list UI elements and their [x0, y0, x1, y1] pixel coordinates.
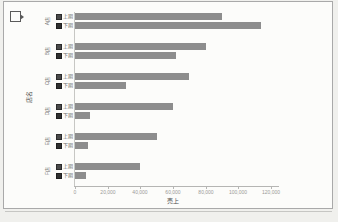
series-label: 上期 — [63, 43, 75, 50]
bar[interactable] — [75, 82, 126, 89]
bar-row: 上期 — [52, 73, 278, 80]
series-label: 上期 — [63, 163, 75, 170]
bar-row: 上期 — [52, 43, 278, 50]
legend-key-icon — [56, 113, 62, 119]
bar[interactable] — [75, 163, 140, 170]
series-label: 下期 — [63, 82, 75, 89]
bar[interactable] — [75, 73, 189, 80]
selection-cursor-icon — [10, 11, 21, 22]
legend-key-icon — [56, 23, 62, 29]
bar-group: A店 上期 下期 — [52, 13, 278, 29]
legend-key-icon — [56, 44, 62, 50]
x-tick-label: 100,000 — [229, 189, 247, 195]
selection-cursor-arrow-icon — [20, 14, 24, 20]
x-axis-line — [74, 186, 279, 187]
bar[interactable] — [75, 112, 90, 119]
series-label: 上期 — [63, 133, 75, 140]
series-label: 下期 — [63, 172, 75, 179]
bar-row: 上期 — [52, 163, 278, 170]
bar-row: 下期 — [52, 142, 278, 149]
bar-group: D店 上期 下期 — [52, 103, 278, 119]
legend-key-icon — [56, 134, 62, 140]
chart-screenshot: 店名 A店 上期 下期 B店 上期 下期 C店 — [0, 0, 338, 222]
bar-row: 下期 — [52, 22, 278, 29]
bar-group: E店 上期 下期 — [52, 133, 278, 149]
bar-row: 下期 — [52, 112, 278, 119]
bar-row: 下期 — [52, 172, 278, 179]
legend-key-icon — [56, 173, 62, 179]
legend-key-icon — [56, 83, 62, 89]
x-tick-label: 0 — [74, 189, 77, 195]
x-tick-label: 80,000 — [198, 189, 213, 195]
legend-key-icon — [56, 74, 62, 80]
bar[interactable] — [75, 22, 261, 29]
series-label: 下期 — [63, 22, 75, 29]
legend-key-icon — [56, 53, 62, 59]
series-label: 上期 — [63, 103, 75, 110]
chart-frame-shadow — [5, 211, 332, 212]
bar[interactable] — [75, 142, 88, 149]
bar[interactable] — [75, 13, 222, 20]
bar[interactable] — [75, 133, 157, 140]
bar-row: 下期 — [52, 52, 278, 59]
bar-group: B店 上期 下期 — [52, 43, 278, 59]
bar-row: 上期 — [52, 13, 278, 20]
y-axis-title: 店名 — [24, 87, 33, 107]
x-tick-label: 20,000 — [100, 189, 115, 195]
bar-row: 上期 — [52, 103, 278, 110]
bar-group: C店 上期 下期 — [52, 73, 278, 89]
y-axis-line — [74, 12, 75, 186]
bar-row: 上期 — [52, 133, 278, 140]
series-label: 上期 — [63, 13, 75, 20]
bar[interactable] — [75, 172, 86, 179]
series-label: 上期 — [63, 73, 75, 80]
x-tick-label: 60,000 — [165, 189, 180, 195]
series-label: 下期 — [63, 112, 75, 119]
bar[interactable] — [75, 43, 206, 50]
x-tick-label: 40,000 — [132, 189, 147, 195]
bar[interactable] — [75, 103, 173, 110]
series-label: 下期 — [63, 52, 75, 59]
legend-key-icon — [56, 104, 62, 110]
bar-group: F店 上期 下期 — [52, 163, 278, 179]
bar-row: 下期 — [52, 82, 278, 89]
legend-key-icon — [56, 14, 62, 20]
bar[interactable] — [75, 52, 176, 59]
legend-key-icon — [56, 143, 62, 149]
x-axis-title: 売上 — [123, 196, 223, 205]
legend-key-icon — [56, 164, 62, 170]
series-label: 下期 — [63, 142, 75, 149]
x-tick-label: 120,000 — [262, 189, 280, 195]
